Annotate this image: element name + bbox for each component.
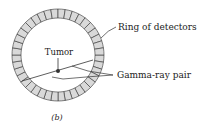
gamma-leader-lower (52, 75, 113, 79)
detector-segment (51, 9, 58, 18)
ring-leader-line (101, 27, 116, 38)
detector-segment (95, 48, 104, 55)
gamma-label: Gamma-ray pair (117, 70, 192, 80)
figure-caption: (b) (51, 113, 62, 122)
tumor-dot (56, 69, 60, 73)
tumor-label: Tumor (45, 47, 74, 57)
pet-scanner-diagram: Ring of detectors Tumor Gamma-ray pair (… (0, 0, 205, 127)
ring-label: Ring of detectors (118, 22, 197, 32)
detector-segment (58, 92, 65, 101)
detector-segment (12, 55, 21, 62)
